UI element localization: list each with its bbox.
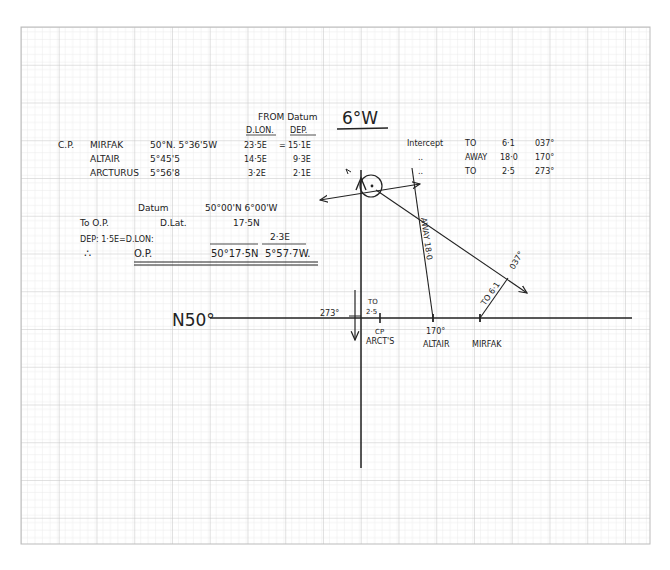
svg-text:3·2E: 3·2E (248, 169, 266, 178)
svg-text:Intercept: Intercept (407, 139, 443, 148)
svg-text:2·1E: 2·1E (293, 169, 311, 178)
svg-text:..: .. (418, 167, 423, 176)
svg-text:∴: ∴ (84, 247, 91, 260)
svg-text:DEP.: DEP. (290, 126, 307, 135)
svg-text:TO: TO (464, 139, 476, 148)
parallel-label: N50° (172, 310, 215, 330)
svg-text:O.P.: O.P. (134, 248, 152, 259)
svg-text:MIRFAK: MIRFAK (90, 140, 124, 150)
svg-text:170°: 170° (535, 153, 554, 162)
svg-text:..: .. (418, 153, 423, 162)
svg-text:ALTAIR: ALTAIR (423, 340, 450, 349)
svg-text:2·5: 2·5 (502, 167, 515, 176)
svg-text:D.Lat.: D.Lat. (160, 218, 187, 228)
svg-text:5°56'8: 5°56'8 (150, 168, 180, 178)
svg-text:6·1: 6·1 (502, 139, 515, 148)
svg-text:=: = (279, 141, 286, 150)
svg-text:50°N. 5°36'5W: 50°N. 5°36'5W (150, 140, 217, 150)
graph-paper-grid (21, 27, 650, 544)
plotting-sheet: 6°W FROM Datum D.LON. DEP. C.P. MIRFAK 5… (0, 0, 670, 570)
svg-text:170°: 170° (426, 327, 445, 336)
svg-text:TO: TO (464, 167, 476, 176)
svg-text:TO: TO (367, 298, 378, 306)
svg-text:AWAY: AWAY (465, 153, 487, 162)
svg-text:To O.P.: To O.P. (79, 218, 109, 228)
svg-text:C.P.: C.P. (58, 140, 74, 150)
svg-text:50°17·5N: 50°17·5N (211, 248, 258, 259)
svg-text:14·5E: 14·5E (244, 155, 267, 164)
svg-text:2·5: 2·5 (366, 308, 377, 316)
svg-text:ALTAIR: ALTAIR (90, 154, 120, 164)
svg-text:273°: 273° (535, 167, 554, 176)
svg-text:CP: CP (375, 328, 384, 336)
svg-text:ARCTURUS: ARCTURUS (90, 168, 139, 178)
svg-text:273°: 273° (320, 309, 339, 318)
svg-text:ARCT'S: ARCT'S (366, 337, 394, 346)
svg-text:D.LON.: D.LON. (246, 126, 274, 135)
svg-text:17·5N: 17·5N (233, 218, 260, 228)
svg-text:FROM Datum: FROM Datum (258, 112, 318, 122)
svg-text:5°45'5: 5°45'5 (150, 154, 180, 164)
svg-text:15·1E: 15·1E (288, 141, 311, 150)
svg-text:18·0: 18·0 (500, 153, 518, 162)
svg-text:MIRFAK: MIRFAK (472, 340, 502, 349)
svg-text:2·3E: 2·3E (270, 232, 290, 242)
svg-text:50°00'N 6°00'W: 50°00'N 6°00'W (205, 203, 278, 213)
svg-text:23·5E: 23·5E (244, 141, 267, 150)
svg-text:5°57·7W.: 5°57·7W. (265, 248, 311, 259)
svg-text:DEP: 1·5E=D.LON:: DEP: 1·5E=D.LON: (80, 235, 154, 244)
svg-text:6°W: 6°W (342, 108, 378, 128)
svg-text:9·3E: 9·3E (293, 155, 311, 164)
svg-text:037°: 037° (535, 139, 554, 148)
svg-text:Datum: Datum (138, 203, 168, 213)
